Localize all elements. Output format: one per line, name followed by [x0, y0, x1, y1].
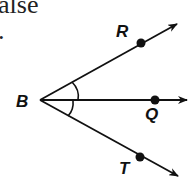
rays-svg	[0, 0, 189, 177]
angle-arc-rbq	[72, 82, 78, 100]
point-q-dot	[151, 96, 160, 105]
angle-diagram: alse . R Q T B	[0, 0, 189, 177]
label-b: B	[16, 93, 28, 110]
ray-br	[40, 24, 177, 100]
angle-arc-qbt	[68, 100, 73, 116]
point-r-dot	[137, 39, 146, 48]
label-q: Q	[145, 106, 158, 123]
point-t-dot	[136, 153, 145, 162]
label-t: T	[119, 160, 129, 177]
label-r: R	[116, 23, 128, 40]
